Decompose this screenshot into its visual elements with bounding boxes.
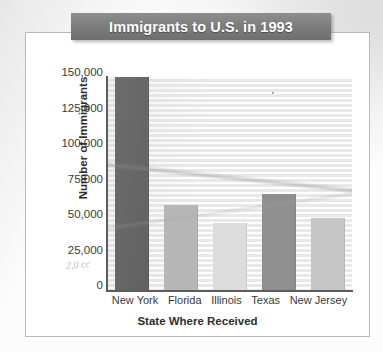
x-axis-tick: Texas [251, 294, 280, 306]
bar [115, 77, 149, 290]
chart-title: Immigrants to U.S. in 1993 [109, 19, 293, 35]
x-axis-title: State Where Received [25, 315, 370, 327]
y-axis-tick: 150,000 [45, 66, 103, 78]
x-axis-tick: New York [112, 294, 158, 306]
y-axis-tick: 0 [45, 279, 103, 291]
y-axis-tick-labels: 150,000125,000100,00075,00050,00025,0000 [45, 72, 103, 291]
bar-series [107, 77, 352, 290]
x-axis-tick: New Jersey [290, 294, 347, 306]
bar [164, 205, 198, 290]
y-axis-tick: 50,000 [45, 208, 103, 220]
x-axis-tick-labels: New YorkFloridaIllinoisTexasNew Jersey [107, 294, 352, 306]
bar-chart: Number of Immigrants 150,000125,000100,0… [25, 32, 370, 337]
bar [311, 218, 345, 290]
plot-area [107, 77, 352, 290]
bar [213, 223, 247, 290]
y-axis-tick: 100,000 [45, 137, 103, 149]
chart-title-banner: Immigrants to U.S. in 1993 [71, 13, 331, 40]
x-axis-tick: Florida [168, 294, 202, 306]
x-axis-line [106, 290, 353, 292]
y-axis-line [106, 76, 108, 291]
y-axis-tick: 25,000 [45, 244, 103, 256]
y-axis-tick: 75,000 [45, 173, 103, 185]
x-axis-tick: Illinois [211, 294, 242, 306]
bar [262, 194, 296, 290]
y-axis-tick: 125,000 [45, 102, 103, 114]
